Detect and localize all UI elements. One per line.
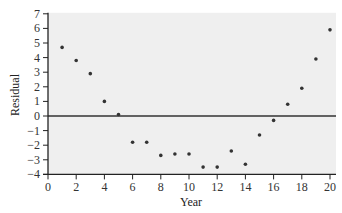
x-axis: 02468101214161820	[43, 174, 336, 194]
data-point	[131, 140, 135, 144]
y-axis: −4−3−2−101234567	[27, 7, 48, 182]
data-point	[328, 28, 332, 32]
data-point	[173, 152, 177, 156]
x-tick-label: 20	[324, 180, 336, 194]
y-tick-label: 2	[34, 80, 40, 94]
plot-background	[48, 13, 336, 175]
y-tick-label: 3	[34, 65, 40, 79]
x-tick-label: 16	[268, 180, 280, 194]
data-point	[74, 59, 78, 63]
data-point	[258, 133, 262, 137]
y-tick-label: 5	[34, 36, 40, 50]
x-tick-label: 0	[45, 180, 51, 194]
x-tick-label: 10	[183, 180, 195, 194]
y-tick-label: 1	[34, 94, 40, 108]
y-tick-label: 6	[34, 21, 40, 35]
data-point	[117, 113, 121, 117]
residual-scatter-chart: −4−3−2−101234567 02468101214161820 Year …	[0, 0, 342, 213]
data-point	[201, 165, 205, 169]
y-tick-label: −1	[27, 124, 40, 138]
x-tick-label: 12	[211, 180, 223, 194]
x-tick-label: 6	[130, 180, 136, 194]
data-point	[145, 140, 149, 144]
y-tick-label: 4	[34, 51, 40, 65]
data-point	[230, 149, 234, 153]
data-point	[244, 162, 248, 166]
data-point	[187, 152, 191, 156]
x-tick-label: 8	[158, 180, 164, 194]
data-point	[314, 57, 318, 61]
data-point	[300, 86, 304, 90]
data-point	[89, 72, 93, 76]
x-tick-label: 18	[296, 180, 308, 194]
x-tick-label: 4	[101, 180, 107, 194]
y-tick-label: −3	[27, 153, 40, 167]
data-point	[103, 100, 107, 104]
y-tick-label: 0	[34, 109, 40, 123]
data-point	[159, 154, 163, 158]
data-point	[215, 165, 219, 169]
y-axis-title: Residual	[8, 73, 22, 116]
x-tick-label: 14	[239, 180, 251, 194]
y-tick-label: −4	[27, 167, 40, 181]
data-point	[272, 119, 276, 123]
x-axis-title: Year	[180, 195, 202, 209]
x-tick-label: 2	[73, 180, 79, 194]
data-point	[286, 103, 290, 107]
y-tick-label: −2	[27, 138, 40, 152]
data-point	[60, 46, 64, 50]
y-tick-label: 7	[34, 7, 40, 21]
